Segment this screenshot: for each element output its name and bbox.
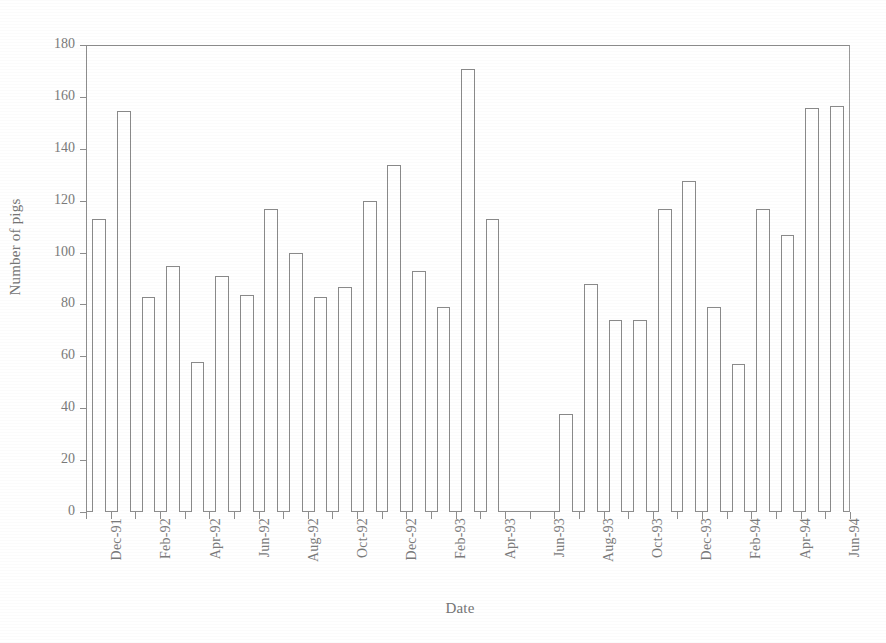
bar xyxy=(682,181,696,512)
bar xyxy=(559,414,573,512)
y-axis-tick-label: 140 xyxy=(35,140,75,156)
x-axis-tick xyxy=(480,512,481,519)
x-axis-tick-label: Aug-93 xyxy=(601,518,617,598)
x-axis-tick-label: Dec-91 xyxy=(109,518,125,598)
y-axis-tick xyxy=(80,408,86,409)
bar xyxy=(437,307,451,512)
x-axis-tick xyxy=(234,512,235,519)
x-axis-tick xyxy=(677,512,678,519)
x-axis-tick xyxy=(727,512,728,519)
y-axis-tick xyxy=(80,201,86,202)
x-axis-tick-label: Feb-93 xyxy=(453,518,469,598)
x-axis-labels: Dec-91Feb-92Apr-92Jun-92Aug-92Oct-92Dec-… xyxy=(86,520,850,600)
bar xyxy=(240,295,254,512)
bar xyxy=(117,111,131,512)
bar xyxy=(264,209,278,512)
y-axis-tick xyxy=(80,253,86,254)
x-axis-tick xyxy=(431,512,432,519)
x-axis-tick-label: Dec-93 xyxy=(699,518,715,598)
y-axis-tick-label: 100 xyxy=(35,244,75,260)
x-axis-tick-label: Apr-92 xyxy=(208,518,224,598)
x-axis-tick xyxy=(776,512,777,519)
x-axis-tick xyxy=(579,512,580,519)
bar xyxy=(142,297,156,512)
bar xyxy=(314,297,328,512)
x-axis-tick-label: Apr-93 xyxy=(503,518,519,598)
y-axis-tick-label: 120 xyxy=(35,192,75,208)
x-axis-tick-label: Apr-94 xyxy=(798,518,814,598)
bar xyxy=(363,201,377,512)
x-axis-tick-label: Dec-92 xyxy=(404,518,420,598)
y-axis-tick-label: 60 xyxy=(35,347,75,363)
bar xyxy=(215,276,229,512)
bars-container xyxy=(87,46,849,512)
y-axis-tick xyxy=(80,460,86,461)
x-axis-tick xyxy=(530,512,531,519)
y-axis-title: Number of pigs xyxy=(1,14,29,481)
x-axis-tick-label: Feb-92 xyxy=(158,518,174,598)
bar xyxy=(289,253,303,512)
bar xyxy=(781,235,795,512)
y-axis-tick-label: 160 xyxy=(35,88,75,104)
pig-population-bar-chart: Number of pigs 020406080100120140160180 … xyxy=(0,0,886,643)
x-axis-tick xyxy=(332,512,333,519)
x-axis-title: Date xyxy=(390,600,530,617)
y-axis-tick-label: 80 xyxy=(35,295,75,311)
x-axis-tick xyxy=(628,512,629,519)
bar xyxy=(609,320,623,512)
y-axis-tick xyxy=(80,45,86,46)
x-axis-tick-label: Oct-93 xyxy=(650,518,666,598)
x-axis-tick xyxy=(283,512,284,519)
y-axis-tick-label: 180 xyxy=(35,36,75,52)
x-axis-tick xyxy=(185,512,186,519)
bar xyxy=(191,362,205,512)
bar xyxy=(658,209,672,512)
bar xyxy=(707,307,721,512)
y-axis-tick-label: 40 xyxy=(35,399,75,415)
bar xyxy=(166,266,180,512)
y-axis-tick xyxy=(80,304,86,305)
bar xyxy=(92,219,106,512)
bar xyxy=(584,284,598,512)
bar xyxy=(387,165,401,512)
x-axis-tick-label: Oct-92 xyxy=(355,518,371,598)
x-axis-tick-label: Jun-92 xyxy=(257,518,273,598)
bar xyxy=(732,364,746,512)
bar xyxy=(412,271,426,512)
bar xyxy=(805,108,819,512)
bar xyxy=(756,209,770,512)
x-axis-tick xyxy=(135,512,136,519)
bar xyxy=(461,69,475,512)
x-axis-tick-label: Feb-94 xyxy=(748,518,764,598)
y-axis-tick xyxy=(80,149,86,150)
y-axis-tick xyxy=(80,356,86,357)
bar xyxy=(633,320,647,512)
x-axis-tick-label: Jun-93 xyxy=(552,518,568,598)
x-axis-tick xyxy=(382,512,383,519)
y-axis-tick-label: 0 xyxy=(35,503,75,519)
y-axis-tick xyxy=(80,97,86,98)
x-axis-tick xyxy=(86,512,87,519)
x-axis-tick-label: Aug-92 xyxy=(306,518,322,598)
bar xyxy=(830,106,844,512)
bar xyxy=(486,219,500,512)
x-axis-tick xyxy=(825,512,826,519)
bar xyxy=(338,287,352,512)
y-axis-tick-label: 20 xyxy=(35,451,75,467)
x-axis-tick-label: Jun-94 xyxy=(847,518,863,598)
